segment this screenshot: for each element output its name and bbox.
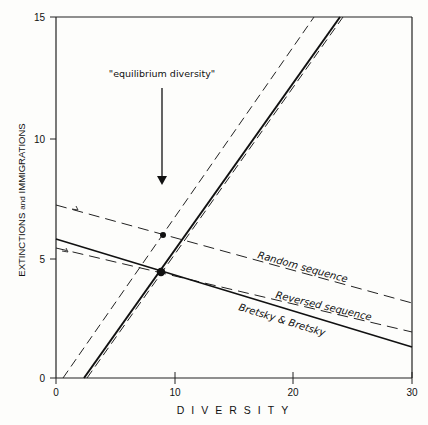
series-random-sequence xyxy=(56,205,412,303)
x-axis-title: DIVERSITY xyxy=(177,404,295,416)
y-tick-10: 10 xyxy=(34,134,46,145)
y-tick-0: 0 xyxy=(39,373,45,384)
x-tick-0: 0 xyxy=(53,387,59,398)
equilibrium-point-bretsky xyxy=(157,268,165,276)
x-tick-30: 30 xyxy=(406,387,418,398)
equilibrium-point-random xyxy=(160,232,166,238)
x-tick-20: 20 xyxy=(287,387,299,398)
axis-ticks xyxy=(50,17,412,384)
y-tick-5: 5 xyxy=(39,254,45,265)
plot-frame xyxy=(50,17,412,378)
arrow-down-icon xyxy=(157,88,167,185)
y-axis-title: EXTINCTIONSandIMMIGRATIONS xyxy=(16,123,27,276)
y-tick-15: 15 xyxy=(34,12,46,23)
annotation-equilibrium-diversity: "equilibrium diversity" xyxy=(109,68,215,79)
y-tick-labels: 15 10 5 0 xyxy=(34,12,46,384)
label-random-sequence: Random sequence xyxy=(256,249,349,284)
chart: 15 10 5 0 0 10 20 30 DIVERSITY EXTINCTIO… xyxy=(0,0,428,425)
y-axis-title-and: and xyxy=(18,196,27,209)
series-bretsky xyxy=(56,239,412,347)
x-tick-10: 10 xyxy=(169,387,181,398)
hook-mark-random xyxy=(72,206,78,210)
y-axis-title-part2: IMMIGRATIONS xyxy=(16,123,27,193)
x-tick-labels: 0 10 20 30 xyxy=(53,387,418,398)
y-axis-title-part1: EXTINCTIONS xyxy=(16,213,27,277)
